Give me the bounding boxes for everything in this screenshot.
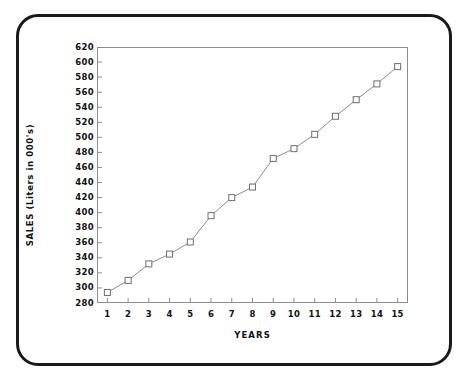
y-axis-tick-label: 300: [60, 283, 94, 292]
y-axis-tick-label: 560: [60, 88, 94, 97]
data-point-marker: [229, 195, 235, 201]
data-point-marker: [250, 184, 256, 190]
y-axis-tick-label: 280: [60, 299, 94, 308]
y-axis-tick-label: 340: [60, 253, 94, 262]
y-axis-tick-label: 620: [60, 43, 94, 52]
y-axis-tick-labels: 2803003203403603804004204404604805005205…: [56, 0, 94, 383]
data-point-marker: [291, 146, 297, 152]
y-axis-tick-label: 440: [60, 178, 94, 187]
y-axis-tick-label: 500: [60, 133, 94, 142]
y-axis-tick-label: 580: [60, 73, 94, 82]
data-point-marker: [167, 251, 173, 257]
data-point-marker: [187, 239, 193, 245]
data-point-marker: [395, 64, 401, 70]
data-point-marker: [146, 261, 152, 267]
y-axis-tick-label: 460: [60, 163, 94, 172]
data-point-marker: [270, 155, 276, 161]
y-axis-tick-label: 600: [60, 58, 94, 67]
data-point-marker: [104, 289, 110, 295]
y-axis-tick-label: 400: [60, 208, 94, 217]
screenshot-page: 2803003203403603804004204404604805005205…: [0, 0, 468, 383]
data-point-marker: [125, 277, 131, 283]
x-axis-tick-label: 15: [385, 309, 411, 319]
line-chart-figure: 2803003203403603804004204404604805005205…: [0, 0, 468, 383]
y-axis-tick-label: 380: [60, 223, 94, 232]
data-point-marker: [374, 81, 380, 87]
y-axis-title: SALES (Liters in 000's): [22, 105, 38, 265]
y-axis-tick-label: 420: [60, 193, 94, 202]
y-axis-tick-label: 540: [60, 103, 94, 112]
y-axis-tick-label: 520: [60, 118, 94, 127]
plot-canvas: [97, 47, 408, 303]
data-point-marker: [332, 113, 338, 119]
y-axis-tick-label: 320: [60, 268, 94, 277]
y-axis-tick-label: 480: [60, 148, 94, 157]
x-axis-title: YEARS: [97, 330, 408, 340]
y-axis-title-text: SALES (Liters in 000's): [25, 124, 35, 246]
data-point-marker: [312, 131, 318, 137]
y-axis-tick-label: 360: [60, 238, 94, 247]
x-axis-tick-labels: 123456789101112131415: [97, 309, 408, 323]
data-point-marker: [208, 213, 214, 219]
data-point-marker: [353, 97, 359, 103]
